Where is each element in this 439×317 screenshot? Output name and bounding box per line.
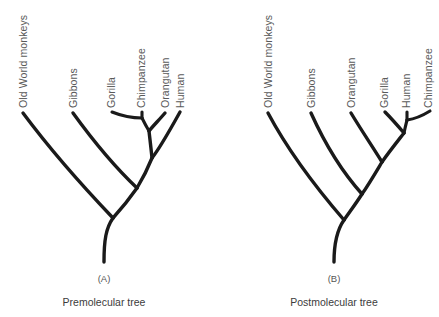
panel-caption-b: Postmolecular tree [290,296,378,308]
panel-letter-b: (B) [328,273,341,284]
tip-label-gorilla-a: Gorilla [105,77,117,108]
tip-label-chimpanzee-b: Chimpanzee [422,48,434,108]
phylogenetic-tree-figure: Old World monkeys Gibbons Gorilla Chimpa… [0,0,439,317]
tip-label-old-world-monkeys-a: Old World monkeys [17,15,29,108]
tip-label-chimpanzee-a: Chimpanzee [135,48,147,108]
tip-label-orangutan-b: Orangutan [345,57,357,108]
panel-caption-a: Premolecular tree [63,296,146,308]
figure-background [0,0,439,317]
tip-label-gibbons-b: Gibbons [305,68,317,108]
tip-label-human-a: Human [174,74,186,108]
panel-letter-a: (A) [98,273,111,284]
tip-label-gibbons-a: Gibbons [67,68,79,108]
tip-label-orangutan-a: Orangutan [159,57,171,108]
tip-label-old-world-monkeys-b: Old World monkeys [262,15,274,108]
tip-label-gorilla-b: Gorilla [378,77,390,108]
tip-label-human-b: Human [400,74,412,108]
